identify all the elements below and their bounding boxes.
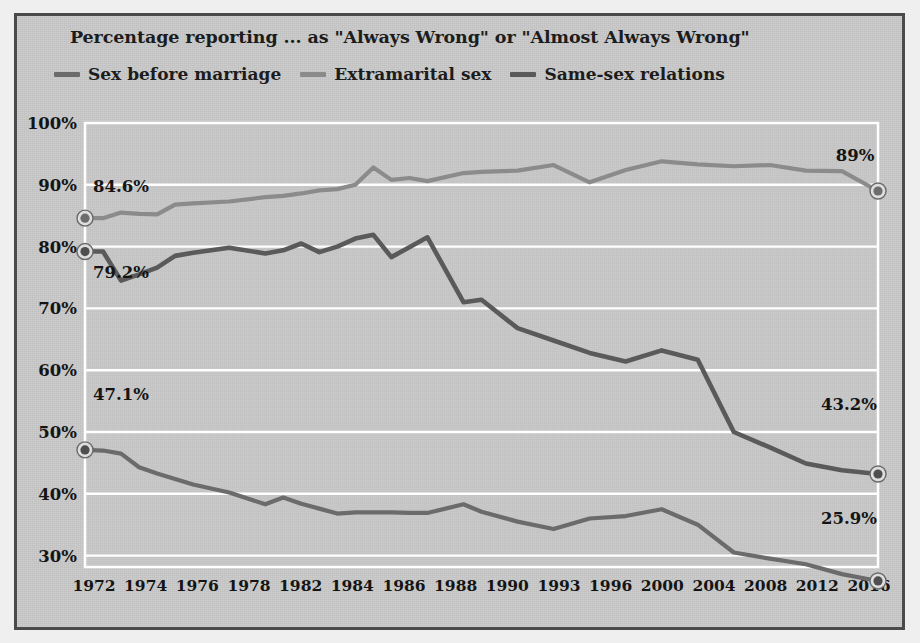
plot-background — [85, 123, 878, 567]
plot-area — [0, 0, 920, 643]
value-label-432: 43.2% — [821, 395, 877, 414]
value-label-846: 84.6% — [93, 177, 149, 196]
marker-start-same-sex-relations[interactable] — [80, 247, 89, 256]
value-label-89: 89% — [836, 146, 875, 165]
value-label-792: 79.2% — [93, 263, 149, 282]
marker-end-sex-before-marriage[interactable] — [873, 576, 882, 585]
chart-page: Percentage reporting ... as "Always Wron… — [0, 0, 920, 643]
value-label-259: 25.9% — [821, 509, 877, 528]
marker-start-sex-before-marriage[interactable] — [80, 445, 89, 454]
marker-end-extramarital-sex[interactable] — [873, 186, 882, 195]
value-label-471: 47.1% — [93, 385, 149, 404]
marker-start-extramarital-sex[interactable] — [80, 214, 89, 223]
marker-end-same-sex-relations[interactable] — [873, 469, 882, 478]
